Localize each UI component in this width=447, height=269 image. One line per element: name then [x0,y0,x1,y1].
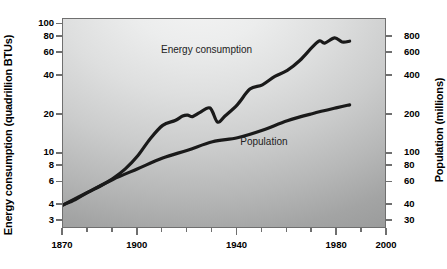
x-axis-tick-mark [335,228,337,235]
x-axis-minor-tick-mark [86,228,88,232]
x-axis-tick-mark [61,228,63,235]
x-axis-minor-tick-mark [186,228,188,232]
x-axis-minor-tick-mark [161,228,163,232]
x-axis-tick-mark [236,228,238,235]
x-axis-minor-tick-mark [211,228,213,232]
x-axis-tick-label: 2000 [375,239,396,250]
x-axis-minor-tick-mark [360,228,362,232]
x-axis-minor-tick-mark [310,228,312,232]
x-axis-ticks: 18701900194019802000 [0,0,447,269]
chart-container: Energy consumption (quadrillion BTUs) Po… [0,0,447,269]
x-axis-tick-label: 1940 [226,239,247,250]
x-axis-minor-tick-mark [261,228,263,232]
x-axis-minor-tick-mark [111,228,113,232]
x-axis-minor-tick-mark [286,228,288,232]
x-axis-tick-mark [385,228,387,235]
x-axis-tick-label: 1870 [51,239,72,250]
x-axis-tick-label: 1980 [326,239,347,250]
series-label-energy-consumption: Energy consumption [161,44,252,55]
series-label-population: Population [240,136,287,147]
x-axis-tick-label: 1900 [126,239,147,250]
x-axis-tick-mark [136,228,138,235]
